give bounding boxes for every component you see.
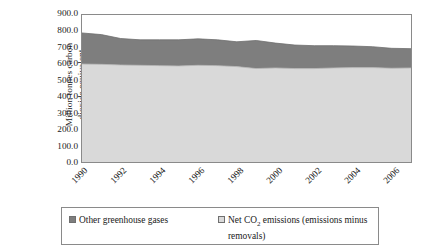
legend-item-net-co2: Net CO2 emissions (emissions minus remov… [218, 214, 373, 242]
chart-container: Million tonnes carbon dioxide equivalent… [0, 0, 424, 252]
legend-swatch-net-co2 [218, 216, 225, 223]
legend-label-other-ghg: Other greenhouse gases [79, 214, 168, 226]
legend-label-net-co2: Net CO2 emissions (emissions minus remov… [228, 214, 373, 242]
legend-swatch-other-ghg [69, 216, 76, 223]
chart-legend: Other greenhouse gases Net CO2 emissions… [61, 207, 379, 245]
x-axis-tick-label: 1990 [55, 166, 90, 201]
x-axis-tick-label: 2000 [249, 166, 284, 201]
legend-label-net-co2-pre: Net CO [228, 215, 257, 225]
x-axis-tick-label: 2006 [366, 166, 401, 201]
x-axis-tick-label: 1998 [210, 166, 245, 201]
x-axis-tick-label: 1994 [133, 166, 168, 201]
x-axis-tick-label: 2002 [288, 166, 323, 201]
legend-item-other-ghg: Other greenhouse gases [69, 214, 168, 226]
x-axis-tick-label: 1996 [172, 166, 207, 201]
x-axis-tick-label: 1992 [94, 166, 129, 201]
x-axis-tick-label: 2004 [327, 166, 362, 201]
